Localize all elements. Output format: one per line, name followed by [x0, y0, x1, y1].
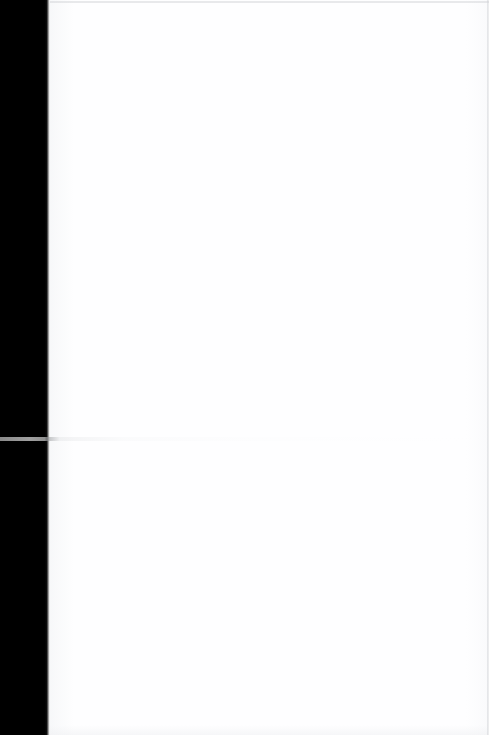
scanner-gutter: [0, 0, 48, 735]
scanned-page: [0, 0, 496, 735]
top-edge-rule: [48, 1, 496, 3]
right-edge-rule: [487, 0, 489, 735]
scanner-gutter-edge: [45, 0, 50, 735]
page-surface: [48, 0, 488, 735]
right-margin: [489, 0, 496, 735]
